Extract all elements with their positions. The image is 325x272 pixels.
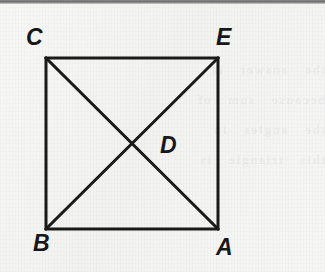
vertex-label-d: D [160,134,177,157]
vertex-label-c: C [26,26,43,49]
figure-page: the answer is because sum of the angles … [0,0,325,272]
vertex-label-a: A [216,236,233,259]
vertex-label-b: B [33,232,50,255]
vertex-label-e: E [216,26,231,49]
